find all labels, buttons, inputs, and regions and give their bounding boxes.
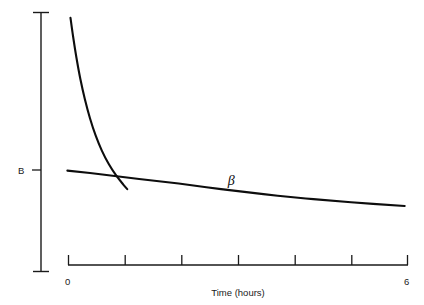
beta-phase-curve (67, 171, 404, 206)
annotation-group: β (227, 173, 235, 188)
beta-phase-label: β (227, 173, 235, 188)
plot-canvas: B 0 6 Time (hours) β (0, 0, 424, 305)
y-axis-group: B (18, 12, 49, 272)
chart-figure: B 0 6 Time (hours) β (0, 0, 424, 305)
x-axis-label-0: 0 (65, 276, 70, 287)
data-series-group (67, 18, 404, 206)
y-axis-label-b: B (18, 165, 24, 176)
alpha-phase-curve (70, 18, 127, 189)
x-axis-label-6: 6 (404, 276, 409, 287)
x-axis-title: Time (hours) (211, 287, 265, 298)
x-axis-group: 0 6 Time (hours) (65, 255, 409, 298)
